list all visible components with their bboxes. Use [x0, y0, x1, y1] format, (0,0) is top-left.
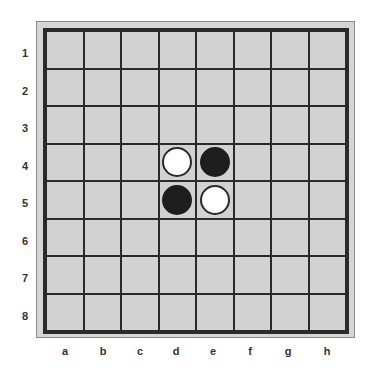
square-h3[interactable] [310, 107, 346, 143]
square-d7[interactable] [160, 257, 196, 293]
column-label-c: c [133, 345, 147, 357]
square-d3[interactable] [160, 107, 196, 143]
square-b6[interactable] [85, 220, 121, 256]
column-label-h: h [320, 345, 334, 357]
white-disc-icon [162, 147, 192, 177]
square-g7[interactable] [272, 257, 308, 293]
square-c2[interactable] [122, 70, 158, 106]
square-a6[interactable] [47, 220, 83, 256]
square-c3[interactable] [122, 107, 158, 143]
black-disc-icon [200, 147, 230, 177]
square-h5[interactable] [310, 182, 346, 218]
square-g8[interactable] [272, 295, 308, 331]
white-disc-icon [200, 185, 230, 215]
square-g6[interactable] [272, 220, 308, 256]
square-a2[interactable] [47, 70, 83, 106]
square-c6[interactable] [122, 220, 158, 256]
square-d4[interactable] [160, 145, 196, 181]
square-c5[interactable] [122, 182, 158, 218]
row-label-8: 8 [18, 310, 32, 322]
square-a8[interactable] [47, 295, 83, 331]
row-label-4: 4 [18, 160, 32, 172]
board-grid [47, 32, 345, 330]
square-f4[interactable] [235, 145, 271, 181]
square-c1[interactable] [122, 32, 158, 68]
square-a4[interactable] [47, 145, 83, 181]
square-a5[interactable] [47, 182, 83, 218]
square-c7[interactable] [122, 257, 158, 293]
square-h2[interactable] [310, 70, 346, 106]
othello-board [43, 28, 349, 334]
square-b8[interactable] [85, 295, 121, 331]
square-f1[interactable] [235, 32, 271, 68]
square-g1[interactable] [272, 32, 308, 68]
square-h6[interactable] [310, 220, 346, 256]
square-d2[interactable] [160, 70, 196, 106]
square-g2[interactable] [272, 70, 308, 106]
square-b7[interactable] [85, 257, 121, 293]
square-f6[interactable] [235, 220, 271, 256]
square-f2[interactable] [235, 70, 271, 106]
column-label-e: e [206, 345, 220, 357]
square-e2[interactable] [197, 70, 233, 106]
row-label-2: 2 [18, 85, 32, 97]
square-a3[interactable] [47, 107, 83, 143]
square-c4[interactable] [122, 145, 158, 181]
square-c8[interactable] [122, 295, 158, 331]
square-d8[interactable] [160, 295, 196, 331]
row-label-3: 3 [18, 122, 32, 134]
row-label-5: 5 [18, 197, 32, 209]
square-h8[interactable] [310, 295, 346, 331]
square-f7[interactable] [235, 257, 271, 293]
square-b5[interactable] [85, 182, 121, 218]
square-e7[interactable] [197, 257, 233, 293]
square-h7[interactable] [310, 257, 346, 293]
square-a1[interactable] [47, 32, 83, 68]
black-disc-icon [162, 185, 192, 215]
square-e8[interactable] [197, 295, 233, 331]
column-label-g: g [281, 345, 295, 357]
square-f3[interactable] [235, 107, 271, 143]
square-f8[interactable] [235, 295, 271, 331]
square-f5[interactable] [235, 182, 271, 218]
square-d6[interactable] [160, 220, 196, 256]
column-label-b: b [96, 345, 110, 357]
square-b4[interactable] [85, 145, 121, 181]
square-a7[interactable] [47, 257, 83, 293]
square-h1[interactable] [310, 32, 346, 68]
row-label-6: 6 [18, 235, 32, 247]
square-g5[interactable] [272, 182, 308, 218]
square-b3[interactable] [85, 107, 121, 143]
row-label-1: 1 [18, 47, 32, 59]
square-h4[interactable] [310, 145, 346, 181]
square-e5[interactable] [197, 182, 233, 218]
square-e3[interactable] [197, 107, 233, 143]
square-d5[interactable] [160, 182, 196, 218]
column-label-d: d [169, 345, 183, 357]
square-e4[interactable] [197, 145, 233, 181]
row-label-7: 7 [18, 272, 32, 284]
square-g4[interactable] [272, 145, 308, 181]
square-g3[interactable] [272, 107, 308, 143]
square-e6[interactable] [197, 220, 233, 256]
square-b2[interactable] [85, 70, 121, 106]
square-d1[interactable] [160, 32, 196, 68]
square-b1[interactable] [85, 32, 121, 68]
column-label-a: a [58, 345, 72, 357]
column-label-f: f [243, 345, 257, 357]
square-e1[interactable] [197, 32, 233, 68]
